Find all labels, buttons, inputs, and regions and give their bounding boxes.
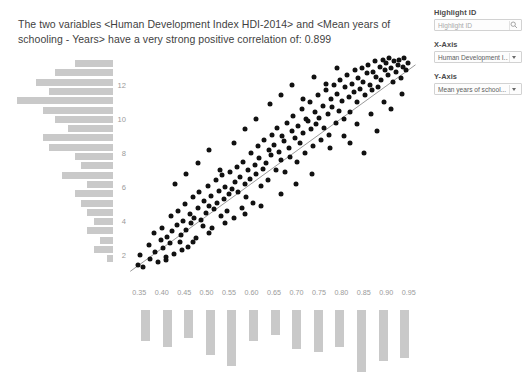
x-tick-label: 0.40 <box>155 288 169 297</box>
scatter-point <box>196 205 201 210</box>
scatter-point <box>289 129 294 134</box>
x-tick-label: 0.45 <box>177 288 191 297</box>
scatter-point <box>340 98 345 103</box>
y-tick-label: 2 <box>106 251 126 260</box>
scatter-point <box>355 100 360 105</box>
scatter-point <box>237 175 242 180</box>
scatter-point <box>278 158 283 163</box>
highlight-id-input[interactable]: Highlight ID <box>434 19 522 31</box>
scatter-point <box>242 181 247 186</box>
scatter-point <box>229 186 234 191</box>
scatter-point <box>291 113 296 118</box>
scatter-point <box>332 83 337 88</box>
scatter-point <box>219 173 224 178</box>
histogram-bar <box>379 310 388 361</box>
scatter-point <box>316 93 321 98</box>
y-axis-label: Y-Axis <box>434 72 522 81</box>
histogram-bar <box>163 310 172 347</box>
scatter-point <box>170 229 175 234</box>
scatter-point <box>265 178 270 183</box>
scatter-point <box>338 78 343 83</box>
x-axis-label: X-Axis <box>434 40 522 49</box>
scatter-point <box>249 151 254 156</box>
scatter-point <box>293 135 298 140</box>
scatter-point <box>301 96 306 101</box>
scatter-point <box>231 141 236 146</box>
scatter-point <box>206 147 211 152</box>
y-tick-label: 8 <box>106 149 126 158</box>
y-tick-label: 12 <box>106 81 126 90</box>
histogram-bar <box>292 310 301 349</box>
chevron-down-icon[interactable] <box>509 52 519 62</box>
scatter-point <box>184 171 189 176</box>
scatter-point <box>148 256 153 261</box>
scatter-point <box>283 169 288 174</box>
scatter-point <box>366 62 371 67</box>
x-tick-label: 0.35 <box>132 288 146 297</box>
scatter-point <box>224 209 229 214</box>
scatter-point <box>330 105 335 110</box>
y-axis-select[interactable]: Mean years of school... <box>434 83 522 95</box>
scatter-point <box>299 107 304 112</box>
x-tick-label: 0.50 <box>200 288 214 297</box>
x-axis-control: X-Axis Human Development I... <box>434 40 522 63</box>
search-icon[interactable] <box>509 20 519 30</box>
scatter-point <box>172 251 177 256</box>
chevron-down-icon[interactable] <box>509 84 519 94</box>
scatter-point <box>278 192 283 197</box>
scatter-point <box>361 79 366 84</box>
scatter-point <box>388 107 393 112</box>
scatter-point <box>146 243 151 248</box>
scatter-point <box>201 224 206 229</box>
scatter-point <box>363 93 368 98</box>
highlight-id-label: Highlight ID <box>434 8 522 17</box>
scatter-point <box>289 83 294 88</box>
scatter-point <box>267 101 272 106</box>
scatter-point <box>268 152 273 157</box>
y-axis-value: Mean years of school... <box>438 85 508 95</box>
scatter-point <box>341 134 346 139</box>
x-tick-label: 0.75 <box>312 288 326 297</box>
x-tick-label: 0.55 <box>222 288 236 297</box>
scatter-point <box>152 231 157 236</box>
histogram-bar <box>249 310 258 341</box>
scatter-point <box>216 188 221 193</box>
correlation-scatter-view: The two variables <Human Development Ind… <box>0 0 528 382</box>
scatter-point <box>165 234 170 239</box>
scatter-point <box>191 195 196 200</box>
scatter-point <box>335 91 340 96</box>
scatter-point <box>384 61 389 66</box>
scatter-point <box>333 120 338 125</box>
histogram-bar <box>206 310 215 355</box>
scatter-point <box>320 103 325 108</box>
scatter-point <box>206 231 211 236</box>
scatter-point <box>195 161 200 166</box>
scatter-point <box>241 159 246 164</box>
scatter-point <box>186 244 191 249</box>
scatter-point <box>183 202 188 207</box>
scatter-point <box>317 115 322 120</box>
scatter-point <box>373 59 378 64</box>
scatter-point <box>348 141 353 146</box>
scatter-point <box>369 88 374 93</box>
scatter-point <box>294 181 299 186</box>
scatter-point <box>306 118 311 123</box>
x-axis-select[interactable]: Human Development I... <box>434 51 522 63</box>
scatter-point <box>258 183 263 188</box>
y-axis-control: Y-Axis Mean years of school... <box>434 72 522 95</box>
scatter-point <box>181 219 186 224</box>
scatter-point <box>404 67 409 72</box>
x-axis-ticks: 0.350.400.450.500.550.600.650.700.750.80… <box>0 288 528 300</box>
scatter-point <box>164 258 169 263</box>
scatter-point <box>350 81 355 86</box>
scatter-point <box>232 180 237 185</box>
scatter-point <box>242 127 247 132</box>
scatter-point <box>275 125 280 130</box>
scatter-point <box>270 132 275 137</box>
scatter-point <box>167 241 172 246</box>
scatter-point <box>302 151 307 156</box>
scatter-point <box>179 232 184 237</box>
scatter-point <box>208 193 213 198</box>
scatter-point <box>273 168 278 173</box>
scatter-point <box>213 178 218 183</box>
